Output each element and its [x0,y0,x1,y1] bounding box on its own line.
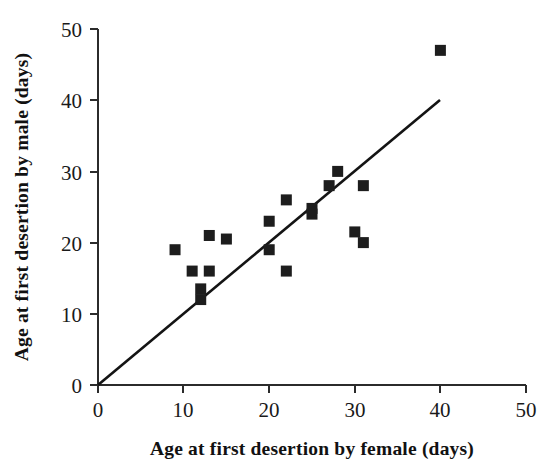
data-point [195,283,206,294]
scatter-plot-figure: 0 10 20 30 40 50 0 10 20 30 40 50 Age at… [0,0,558,471]
y-tick-label-10: 10 [61,303,82,327]
y-tick-label-50: 50 [61,18,82,42]
data-point [435,45,446,56]
y-axis-title: Age at first desertion by male (days) [11,53,33,362]
y-axis-tick-labels: 0 10 20 30 40 50 [61,18,82,398]
data-point [170,244,181,255]
x-tick-label-40: 40 [430,398,451,422]
data-point [187,266,198,277]
data-point [204,266,215,277]
data-point [281,194,292,205]
data-point [358,180,369,191]
data-point-group [170,45,446,305]
reference-line [98,100,440,385]
x-axis-title: Age at first desertion by female (days) [150,438,474,460]
data-point [307,209,318,220]
data-point [195,294,206,305]
data-point [264,216,275,227]
data-point [264,244,275,255]
plot-canvas: 0 10 20 30 40 50 0 10 20 30 40 50 Age at… [0,0,558,471]
data-point [358,237,369,248]
y-tick-label-40: 40 [61,89,82,113]
x-tick-label-0: 0 [93,398,104,422]
data-point [349,226,360,237]
x-axis-tick-labels: 0 10 20 30 40 50 [93,398,537,422]
data-point [204,230,215,241]
x-axis-ticks [98,385,526,393]
x-tick-label-10: 10 [173,398,194,422]
data-point [281,266,292,277]
y-tick-label-0: 0 [72,374,83,398]
y-tick-label-20: 20 [61,232,82,256]
data-point [324,180,335,191]
y-tick-label-30: 30 [61,161,82,185]
data-point [221,234,232,245]
x-tick-label-20: 20 [259,398,280,422]
data-point [332,166,343,177]
y-axis-ticks [90,29,98,385]
x-tick-label-30: 30 [345,398,366,422]
x-tick-label-50: 50 [516,398,537,422]
